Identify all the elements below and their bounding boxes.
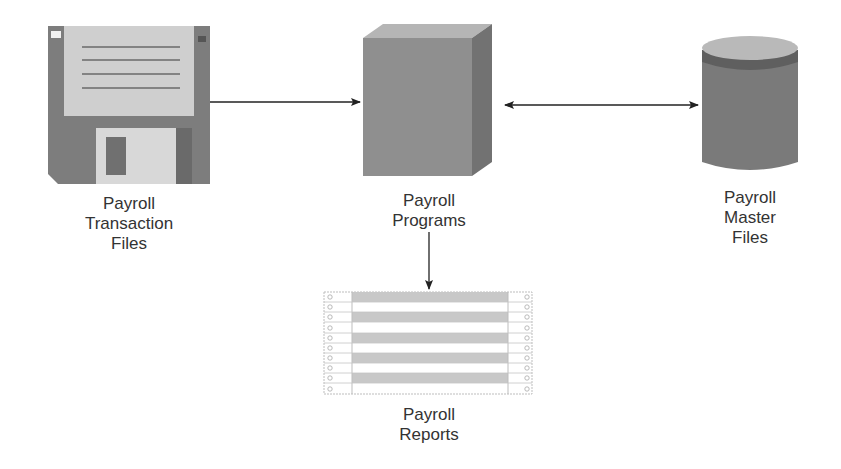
label-transaction-files: Payroll Transaction Files bbox=[54, 194, 204, 254]
label-line: Payroll bbox=[54, 194, 204, 214]
label-line: Payroll bbox=[354, 405, 504, 425]
label-payroll-programs: Payroll Programs bbox=[354, 191, 504, 231]
label-line: Programs bbox=[354, 211, 504, 231]
label-line: Master bbox=[675, 208, 825, 228]
label-line: Payroll bbox=[354, 191, 504, 211]
label-line: Files bbox=[675, 228, 825, 248]
cube-icon bbox=[363, 24, 492, 176]
printout-icon bbox=[324, 292, 532, 394]
label-line: Files bbox=[54, 234, 204, 254]
label-master-files: Payroll Master Files bbox=[675, 188, 825, 248]
label-line: Reports bbox=[354, 425, 504, 445]
label-line: Transaction bbox=[54, 214, 204, 234]
label-line: Payroll bbox=[675, 188, 825, 208]
floppy-disk-icon bbox=[48, 26, 210, 184]
label-payroll-reports: Payroll Reports bbox=[354, 405, 504, 445]
database-cylinder-icon bbox=[702, 36, 798, 170]
